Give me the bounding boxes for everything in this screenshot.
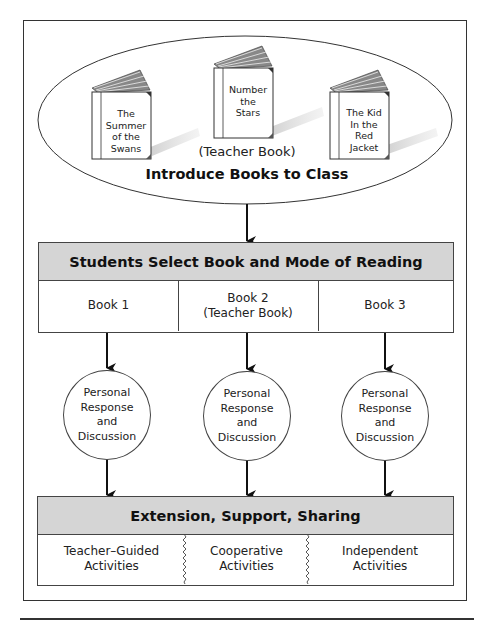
select-table: Students Select Book and Mode of Reading… — [38, 242, 454, 333]
cell-text: Teacher–Guided — [64, 544, 159, 559]
cell-text: Independent — [342, 544, 418, 559]
node-text: Personal — [78, 386, 137, 401]
node-text: Response — [356, 402, 415, 417]
node-text: Personal — [356, 387, 415, 402]
book-title-line: Stars — [223, 107, 273, 119]
cell-subtext: (Teacher Book) — [203, 306, 293, 321]
node-text: and — [356, 416, 415, 431]
book-title-1: The Summer of the Swans — [101, 108, 151, 154]
book-title-line: Jacket — [339, 142, 389, 154]
node-text: Discussion — [218, 431, 277, 446]
book-title-line: Red — [339, 130, 389, 142]
book-title-line: The — [101, 108, 151, 120]
cell-text: Book 3 — [364, 298, 405, 313]
cell-subtext: Activities — [342, 559, 418, 574]
cell-text: Book 1 — [88, 298, 129, 313]
select-cell-book1[interactable]: Book 1 — [39, 280, 179, 331]
book-title-2: Number the Stars — [223, 84, 273, 119]
node-text: Response — [218, 402, 277, 417]
response-node-2: Personal Response and Discussion — [203, 371, 291, 461]
extension-cell-cooperative[interactable]: Cooperative Activities — [185, 534, 308, 584]
select-cell-book2[interactable]: Book 2 (Teacher Book) — [178, 280, 319, 331]
cell-subtext: Activities — [210, 559, 283, 574]
book-title-line: The Kid — [339, 107, 389, 119]
node-text: Discussion — [78, 430, 137, 445]
select-header: Students Select Book and Mode of Reading — [39, 243, 453, 281]
extension-header: Extension, Support, Sharing — [38, 497, 453, 535]
node-text: and — [218, 416, 277, 431]
response-node-3: Personal Response and Discussion — [341, 371, 429, 461]
cell-subtext: Activities — [64, 559, 159, 574]
footer-rule — [20, 618, 474, 620]
book-title-line: of the — [101, 131, 151, 143]
extension-cell-teacher-guided[interactable]: Teacher–Guided Activities — [38, 534, 185, 584]
select-cell-book3[interactable]: Book 3 — [318, 280, 452, 331]
book-title-line: In the — [339, 119, 389, 131]
node-text: and — [78, 415, 137, 430]
book-title-line: Number — [223, 84, 273, 96]
book-title-3: The Kid In the Red Jacket — [339, 107, 389, 153]
book-title-line: Swans — [101, 143, 151, 155]
cell-text: Cooperative — [210, 544, 283, 559]
cell-text: Book 2 — [203, 291, 293, 306]
teacher-book-caption: (Teacher Book) — [185, 144, 309, 159]
extension-cell-independent[interactable]: Independent Activities — [308, 534, 452, 584]
node-text: Response — [78, 401, 137, 416]
response-node-1: Personal Response and Discussion — [63, 370, 151, 460]
book-title-line: the — [223, 96, 273, 108]
node-text: Personal — [218, 387, 277, 402]
book-title-line: Summer — [101, 120, 151, 132]
node-text: Discussion — [356, 431, 415, 446]
extension-table: Extension, Support, Sharing Teacher–Guid… — [37, 496, 454, 586]
intro-label: Introduce Books to Class — [120, 166, 374, 182]
